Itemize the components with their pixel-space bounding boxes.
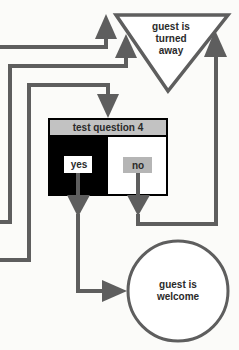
turned-away-label-line-1: guest is xyxy=(152,21,190,32)
welcome-label-line-1: guest is xyxy=(159,279,197,290)
connector-yes-to-welcome xyxy=(78,214,104,291)
flowchart: guest is turned away test question 4 yes… xyxy=(0,0,239,350)
arrowhead-right-welcome xyxy=(102,280,127,302)
question-node[interactable]: test question 4 yes no xyxy=(49,119,167,195)
welcome-label-line-2: welcome xyxy=(156,291,200,302)
arrowhead-down-no xyxy=(127,195,150,216)
connector-line-1 xyxy=(0,38,106,47)
arrowhead-down-question xyxy=(97,94,119,118)
question-title: test question 4 xyxy=(73,122,144,133)
no-label: no xyxy=(132,160,144,171)
arrowhead-down-yes xyxy=(67,195,90,217)
turned-away-label-line-3: away xyxy=(159,45,184,56)
arrowhead-up-1 xyxy=(95,14,117,39)
turned-away-label-line-2: turned xyxy=(155,33,186,44)
yes-label: yes xyxy=(71,159,88,170)
